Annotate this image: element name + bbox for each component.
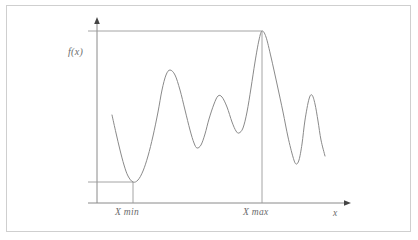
function-plot (0, 0, 418, 240)
x-axis-arrow-icon (344, 200, 351, 206)
x-min-label: X min (115, 207, 139, 217)
x-axis-label: x (333, 208, 338, 218)
x-max-label: X max (243, 207, 269, 217)
y-axis-label: f(x) (68, 46, 83, 57)
figure-container: f(x) X min X max x (0, 0, 418, 240)
y-axis-arrow-icon (94, 17, 100, 24)
function-curve (112, 31, 325, 182)
